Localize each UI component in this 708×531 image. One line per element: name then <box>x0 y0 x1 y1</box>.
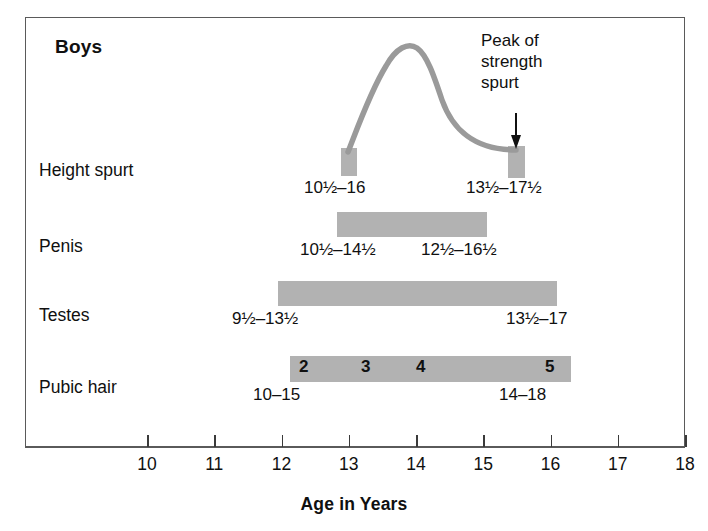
x-axis-tick-label: 18 <box>675 454 694 475</box>
x-axis-tick <box>685 435 687 447</box>
x-axis-tick <box>282 435 284 447</box>
range-pubic-hair-completion: 14–18 <box>499 385 546 405</box>
x-axis-line <box>26 446 684 448</box>
stage-number-4: 4 <box>416 357 425 377</box>
bar-testes <box>278 281 557 306</box>
row-label-testes: Testes <box>39 305 90 326</box>
callout-line-3: spurt <box>481 72 542 93</box>
stage-number-2: 2 <box>299 357 308 377</box>
range-testes-onset: 9½–13½ <box>232 309 298 329</box>
stage-number-3: 3 <box>361 357 370 377</box>
range-height-spurt-completion: 13½–17½ <box>466 178 542 198</box>
row-label-pubic-hair: Pubic hair <box>39 377 117 398</box>
range-pubic-hair-onset: 10–15 <box>253 385 300 405</box>
x-axis-tick-label: 15 <box>474 454 493 475</box>
x-axis-tick-label: 17 <box>608 454 627 475</box>
x-axis-tick-label: 11 <box>205 454 223 475</box>
x-axis-tick <box>214 435 216 447</box>
range-penis-completion: 12½–16½ <box>421 240 497 260</box>
callout-line-2: strength <box>481 51 542 72</box>
bar-penis <box>337 212 487 237</box>
range-testes-completion: 13½–17 <box>506 309 567 329</box>
x-axis-tick-label: 13 <box>339 454 358 475</box>
x-axis-tick <box>349 435 351 447</box>
chart-title: Boys <box>55 36 102 58</box>
x-axis-tick-label: 14 <box>406 454 425 475</box>
x-axis-tick <box>618 435 620 447</box>
bar-height-spurt-onset <box>341 148 357 176</box>
x-axis-tick <box>483 435 485 447</box>
growth-chart-figure: Boys Height spurt Penis Testes Pubic hai… <box>0 0 708 531</box>
x-axis-tick-label: 16 <box>541 454 560 475</box>
x-axis-tick-label: 10 <box>137 454 156 475</box>
row-label-penis: Penis <box>39 236 83 257</box>
callout-peak-of-strength-spurt: Peak of strength spurt <box>481 30 542 93</box>
stage-number-5: 5 <box>545 357 554 377</box>
x-axis-tick <box>416 435 418 447</box>
x-axis-tick-label: 12 <box>272 454 291 475</box>
bar-pubic-hair <box>290 356 571 382</box>
x-axis-title: Age in Years <box>0 494 708 515</box>
bar-height-spurt-completion <box>508 146 525 178</box>
x-axis-tick <box>551 435 553 447</box>
range-height-spurt-onset: 10½–16 <box>304 178 365 198</box>
row-label-height-spurt: Height spurt <box>39 160 133 181</box>
range-penis-onset: 10½–14½ <box>300 240 376 260</box>
x-axis-tick <box>147 435 149 447</box>
callout-line-1: Peak of <box>481 30 542 51</box>
